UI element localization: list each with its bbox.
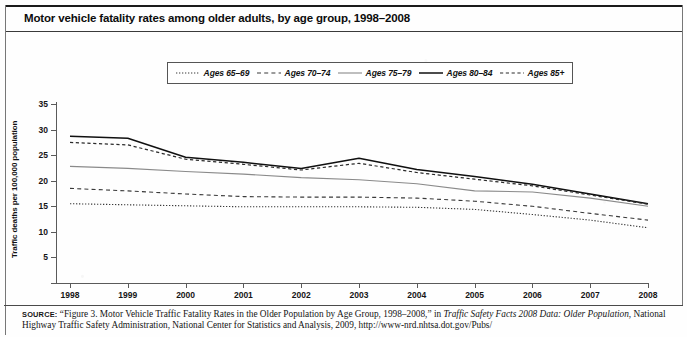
- figure-container: Motor vehicle fatality rates among older…: [0, 0, 687, 337]
- source-text-part1: “Figure 3. Motor Vehicle Traffic Fatalit…: [60, 309, 444, 319]
- x-tick-label: 2002: [284, 290, 318, 300]
- series-line-ages-75-79: [70, 166, 648, 206]
- legend-line-dashed-short-icon: [500, 70, 524, 76]
- source-note: SOURCE: “Figure 3. Motor Vehicle Traffic…: [22, 309, 672, 332]
- y-tick-label: 5: [26, 252, 48, 262]
- source-rule: [4, 305, 683, 306]
- legend-line-dotted-icon: [176, 70, 200, 76]
- title-rule: [6, 31, 682, 32]
- legend-line-solid-light-icon: [338, 70, 362, 76]
- legend-item-ages-80-84: Ages 80–84: [419, 68, 493, 78]
- legend-label: Ages 70–74: [285, 68, 331, 78]
- x-tick-label: 2003: [342, 290, 376, 300]
- series-line-ages-65-69: [70, 204, 648, 228]
- legend-line-solid-dark-icon: [419, 70, 443, 76]
- x-tick-label: 2000: [169, 290, 203, 300]
- legend-item-ages-85-plus: Ages 85+: [500, 68, 565, 78]
- x-tick-label: 2004: [400, 290, 434, 300]
- y-tick-label: 15: [26, 201, 48, 211]
- page-title: Motor vehicle fatality rates among older…: [24, 12, 410, 24]
- right-border: [682, 5, 683, 305]
- legend-label: Ages 75–79: [366, 68, 412, 78]
- x-tick-label: 1999: [111, 290, 145, 300]
- top-rule: [6, 5, 682, 7]
- x-tick-label: 1998: [53, 290, 87, 300]
- x-tick-label: 2005: [458, 290, 492, 300]
- source-kicker: SOURCE:: [22, 310, 57, 319]
- y-tick-label: 35: [26, 99, 48, 109]
- left-border: [5, 5, 6, 335]
- y-axis-label: Traffic deaths per 100,000 population: [10, 121, 19, 258]
- x-tick-label: 2006: [515, 290, 549, 300]
- x-tick-label: 2001: [226, 290, 260, 300]
- legend-label: Ages 85+: [528, 68, 565, 78]
- legend-item-ages-75-79: Ages 75–79: [338, 68, 412, 78]
- legend-label: Ages 80–84: [447, 68, 493, 78]
- chart-legend: Ages 65–69 Ages 70–74 Ages 75–79 Ages 80…: [167, 62, 573, 84]
- legend-line-dashed-long-icon: [257, 70, 281, 76]
- chart-plot-area: [56, 102, 650, 284]
- y-tick-label: 30: [26, 125, 48, 135]
- legend-item-ages-65-69: Ages 65–69: [176, 68, 250, 78]
- legend-label: Ages 65–69: [204, 68, 250, 78]
- source-publication-title: Traffic Safety Facts 2008 Data: Older Po…: [443, 309, 628, 319]
- legend-item-ages-70-74: Ages 70–74: [257, 68, 331, 78]
- series-line-ages-70-74: [70, 188, 648, 220]
- y-tick-label: 25: [26, 150, 48, 160]
- y-tick-label: 10: [26, 227, 48, 237]
- y-tick-label: 20: [26, 176, 48, 186]
- x-tick-label: 2007: [573, 290, 607, 300]
- x-tick-label: 2008: [631, 290, 665, 300]
